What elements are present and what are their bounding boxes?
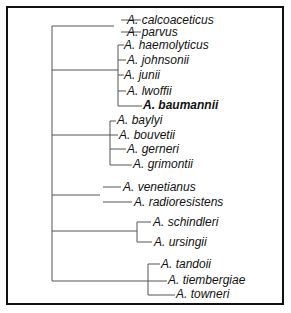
leaf-label: A. schindleri <box>153 215 218 229</box>
leaf-label: A. bouvetii <box>119 128 175 142</box>
leaf-label: A. junii <box>124 68 160 82</box>
leaf-label: A. baylyi <box>117 113 162 127</box>
leaf-label: A. lwoffii <box>127 84 172 98</box>
leaf-label: A. gerneri <box>127 142 179 156</box>
leaf-label: A. radioresistens <box>134 195 223 209</box>
leaf-label: A. grimontii <box>133 157 193 171</box>
leaf-label: A. tiembergiae <box>168 273 245 287</box>
leaf-label: A. tandoii <box>161 257 211 271</box>
leaf-label: A. towneri <box>176 287 229 301</box>
leaf-label: A. venetianus <box>123 180 196 194</box>
leaf-label: A. haemolyticus <box>124 38 209 52</box>
leaf-label: A. parvus <box>127 25 178 39</box>
leaf-label: A. ursingii <box>154 235 207 249</box>
leaf-label-highlighted: A. baumannii <box>143 98 218 112</box>
leaf-label: A. johnsonii <box>127 53 189 67</box>
